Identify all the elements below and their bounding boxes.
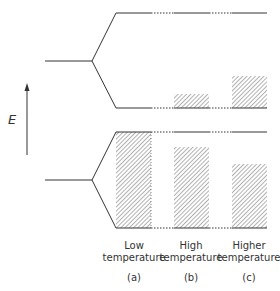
energy-axis-label: E <box>8 112 16 127</box>
fill-c-upper <box>232 76 267 108</box>
fill-b-lower <box>174 147 209 228</box>
fill-b-upper <box>174 94 209 108</box>
hatched-fills <box>116 76 267 228</box>
fill-c-lower <box>232 164 267 228</box>
column-c-tag: (c) <box>214 272 280 284</box>
column-c-line1: Higher <box>214 240 280 252</box>
column-c-line2: temperature <box>214 252 280 264</box>
lower-band-split <box>45 132 116 228</box>
upper-band-split <box>45 13 116 108</box>
energy-axis-arrow <box>25 83 30 155</box>
fill-a-lower <box>116 132 151 228</box>
